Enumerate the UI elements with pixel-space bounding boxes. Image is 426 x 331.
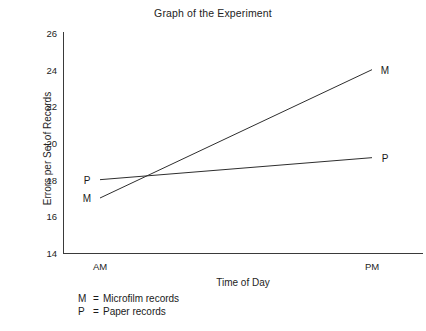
series-endpoint-label: M: [83, 193, 91, 204]
series-endpoint-label: P: [382, 152, 389, 163]
legend-equals-sign: =: [89, 305, 103, 318]
series-endpoint-label: P: [84, 174, 91, 185]
series-endpoint-label: M: [381, 64, 389, 75]
series-line-p: [100, 158, 372, 180]
legend-row: P=Paper records: [78, 305, 179, 318]
chart-legend: M=Microfilm recordsP=Paper records: [78, 292, 179, 318]
legend-row: M=Microfilm records: [78, 292, 179, 305]
x-tick-label: AM: [93, 261, 107, 272]
y-axis-title: Errors per Set of Records: [42, 39, 53, 259]
chart-figure: Graph of the Experiment 14161820222426 A…: [0, 0, 426, 331]
x-axis-line: [63, 253, 423, 254]
chart-title: Graph of the Experiment: [0, 7, 426, 19]
legend-key: P: [78, 305, 89, 318]
x-axis-title: Time of Day: [63, 277, 423, 288]
x-tick-label: PM: [365, 261, 379, 272]
legend-equals-sign: =: [89, 292, 103, 305]
legend-description: Paper records: [103, 305, 166, 318]
legend-description: Microfilm records: [103, 292, 179, 305]
legend-key: M: [78, 292, 89, 305]
y-axis-line: [63, 32, 64, 254]
series-line-m: [100, 70, 372, 198]
y-tick-label: 26: [35, 28, 57, 39]
